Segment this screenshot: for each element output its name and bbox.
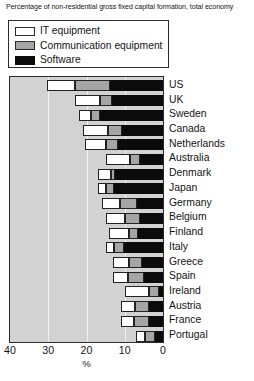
category-label: Australia: [169, 152, 209, 163]
category-label: Greece: [169, 256, 203, 267]
bar-segment-sw: [159, 286, 163, 297]
bar-segment-comm: [125, 213, 140, 224]
bar-row: [10, 80, 163, 91]
bar-segment-it: [106, 242, 115, 253]
bar-row: [10, 257, 163, 268]
bar-segment-sw: [142, 257, 163, 268]
x-axis-tick-0: 0: [160, 345, 166, 356]
bar-row: [10, 272, 163, 283]
bar-segment-sw: [122, 125, 163, 136]
legend-item-it-equipment: IT equipment: [15, 24, 168, 39]
bar-row: [10, 110, 163, 121]
bar-segment-sw: [155, 331, 163, 342]
category-label: US: [169, 79, 183, 90]
bar-segment-it: [79, 110, 91, 121]
bar-row: [10, 95, 163, 106]
bar-segment-comm: [111, 169, 115, 180]
bar-segment-comm: [149, 286, 159, 297]
bar-segment-it: [136, 331, 145, 342]
bar-segment-sw: [118, 139, 163, 150]
category-label: Ireland: [169, 285, 201, 296]
bar-segment-it: [106, 213, 125, 224]
chart-legend: IT equipment Communication equipment Sof…: [8, 20, 169, 68]
legend-label-communication-equipment: Communication equipment: [40, 41, 162, 51]
bar-segment-sw: [140, 154, 163, 165]
bar-segment-sw: [140, 213, 163, 224]
bar-segment-it: [98, 183, 106, 194]
bar-segment-comm: [134, 316, 149, 327]
bar-segment-comm: [108, 125, 122, 136]
legend-item-communication-equipment: Communication equipment: [15, 39, 168, 54]
bar-row: [10, 139, 163, 150]
bar-row: [10, 183, 163, 194]
bar-row: [10, 154, 163, 165]
bar-segment-it: [121, 301, 136, 312]
bar-segment-comm: [135, 301, 149, 312]
bar-segment-comm: [91, 110, 101, 121]
bar-segment-sw: [124, 242, 163, 253]
bar-segment-comm: [100, 95, 112, 106]
bar-segment-sw: [149, 301, 163, 312]
bar-segment-it: [47, 80, 75, 91]
communication-equipment-swatch: [15, 41, 35, 50]
bar-segment-comm: [75, 80, 111, 91]
x-axis-tick-40: 40: [4, 345, 16, 356]
category-label: UK: [169, 94, 183, 105]
bar-segment-sw: [112, 95, 163, 106]
bar-segment-it: [113, 257, 129, 268]
category-label: Japan: [169, 182, 197, 193]
bar-row: [10, 125, 163, 136]
bar-segment-sw: [138, 228, 163, 239]
x-axis: % 403020100: [0, 345, 254, 381]
bar-segment-sw: [115, 169, 163, 180]
category-label: Canada: [169, 123, 205, 134]
bar-row: [10, 213, 163, 224]
bar-segment-comm: [106, 139, 118, 150]
x-axis-tick-20: 20: [81, 345, 93, 356]
bar-segment-it: [85, 139, 106, 150]
category-label: Germany: [169, 197, 212, 208]
bar-segment-comm: [128, 272, 144, 283]
bar-segment-it: [109, 228, 129, 239]
x-axis-title: %: [82, 359, 91, 369]
legend-label-software: Software: [40, 55, 81, 65]
bar-segment-it: [113, 272, 128, 283]
it-equipment-swatch: [15, 27, 35, 36]
bar-segment-comm: [106, 183, 114, 194]
bar-row: [10, 228, 163, 239]
bar-row: [10, 242, 163, 253]
bar-row: [10, 331, 163, 342]
bar-segment-comm: [145, 331, 155, 342]
bar-segment-sw: [137, 198, 163, 209]
bar-row: [10, 286, 163, 297]
legend-item-software: Software: [15, 53, 168, 68]
x-axis-tick-10: 10: [119, 345, 131, 356]
bar-segment-it: [98, 169, 111, 180]
category-label: Portugal: [169, 329, 208, 340]
bar-segment-sw: [110, 80, 163, 91]
bar-segment-sw: [149, 316, 163, 327]
category-label: France: [169, 314, 201, 325]
category-label-list: USUKSwedenCanadaNetherlandsAustraliaDenm…: [169, 76, 254, 343]
category-label: Belgium: [169, 211, 207, 222]
bar-segment-it: [83, 125, 108, 136]
bar-segment-comm: [114, 242, 124, 253]
bar-segment-it: [121, 316, 134, 327]
category-label: Denmark: [169, 167, 211, 178]
x-axis-tick-30: 30: [42, 345, 54, 356]
bar-segment-it: [102, 198, 120, 209]
bar-row: [10, 198, 163, 209]
category-label: Austria: [169, 300, 201, 311]
category-label: Netherlands: [169, 138, 225, 149]
category-label: Spain: [169, 270, 196, 281]
bar-segment-it: [125, 286, 149, 297]
category-label: Finland: [169, 226, 203, 237]
bar-segment-sw: [144, 272, 163, 283]
bar-segment-sw: [114, 183, 163, 194]
legend-label-it-equipment: IT equipment: [40, 26, 100, 36]
bar-segment-comm: [129, 257, 142, 268]
bar-segment-comm: [129, 228, 138, 239]
bar-segment-comm: [120, 198, 137, 209]
bar-row: [10, 169, 163, 180]
bar-segment-comm: [130, 154, 140, 165]
